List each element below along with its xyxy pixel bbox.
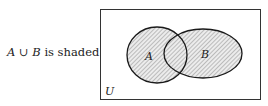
venn-diagram: A B U [0, 0, 268, 106]
set-b-label: B [200, 48, 209, 61]
universe-label: U [105, 85, 115, 98]
set-a-label: A [144, 50, 153, 63]
